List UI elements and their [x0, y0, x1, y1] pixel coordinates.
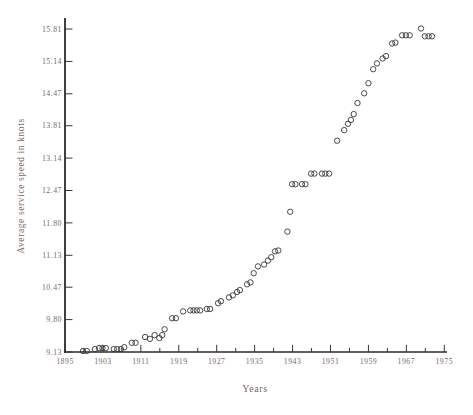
- data-point: [326, 171, 331, 176]
- y-tick-label: 13.14: [42, 154, 62, 163]
- x-tick-label: 1935: [246, 357, 264, 366]
- data-point: [180, 309, 185, 314]
- x-tick-label: 1911: [132, 357, 149, 366]
- y-tick-label: 15.14: [42, 57, 62, 66]
- data-point: [371, 67, 376, 72]
- data-point: [374, 61, 379, 66]
- y-tick-label: 15.81: [42, 25, 62, 34]
- data-point: [276, 248, 281, 253]
- x-tick-label: 1967: [398, 357, 416, 366]
- data-point: [255, 264, 260, 269]
- scatter-chart: 9.139.8010.4711.1311.8012.4713.1413.8114…: [0, 0, 473, 415]
- data-point: [147, 336, 152, 341]
- data-point: [207, 306, 212, 311]
- data-point: [162, 327, 167, 332]
- x-axis-title: Years: [242, 383, 267, 394]
- x-tick-label: 1919: [170, 357, 188, 366]
- data-points: [80, 26, 434, 354]
- data-point: [251, 271, 256, 276]
- y-tick-label: 14.47: [42, 89, 62, 98]
- data-point: [366, 81, 371, 86]
- data-point: [342, 127, 347, 132]
- data-point: [84, 348, 89, 353]
- y-axis-ticks: 9.139.8010.4711.1311.8012.4713.1413.8114…: [42, 25, 73, 357]
- data-point: [265, 258, 270, 263]
- data-point: [393, 40, 398, 45]
- y-tick-label: 9.80: [46, 315, 62, 324]
- data-point: [285, 229, 290, 234]
- y-tick-label: 9.13: [46, 348, 62, 357]
- y-tick-label: 11.13: [42, 251, 62, 260]
- y-tick-label: 12.47: [42, 186, 62, 195]
- x-tick-label: 1903: [94, 357, 112, 366]
- data-point: [197, 308, 202, 313]
- y-tick-label: 11.80: [42, 219, 62, 228]
- x-tick-label: 1927: [208, 357, 226, 366]
- y-tick-label: 10.47: [42, 283, 62, 292]
- data-point: [429, 34, 434, 39]
- x-tick-label: 1975: [435, 357, 453, 366]
- data-point: [355, 100, 360, 105]
- data-point: [345, 121, 350, 126]
- data-point: [348, 117, 353, 122]
- data-point: [173, 316, 178, 321]
- data-point: [133, 340, 138, 345]
- data-point: [418, 26, 423, 31]
- data-point: [288, 209, 293, 214]
- data-point: [293, 182, 298, 187]
- data-point: [351, 111, 356, 116]
- data-point: [334, 138, 339, 143]
- data-point: [407, 33, 412, 38]
- x-tick-label: 1943: [284, 357, 302, 366]
- x-tick-label: 1895: [56, 357, 74, 366]
- data-point: [362, 91, 367, 96]
- scatter-figure: 9.139.8010.4711.1311.8012.4713.1413.8114…: [0, 0, 473, 415]
- data-point: [303, 182, 308, 187]
- data-point: [103, 345, 108, 350]
- y-tick-label: 13.81: [42, 121, 62, 130]
- x-tick-label: 1951: [322, 357, 340, 366]
- x-tick-label: 1959: [360, 357, 378, 366]
- data-point: [269, 255, 274, 260]
- y-axis-title: Average service speed in knots: [16, 118, 26, 253]
- data-point: [312, 171, 317, 176]
